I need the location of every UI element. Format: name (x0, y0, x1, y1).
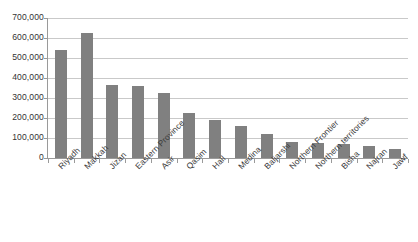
y-axis-tick (44, 98, 48, 99)
y-axis-tick (44, 78, 48, 79)
bar[interactable] (132, 86, 144, 158)
x-axis-labels: RiyadhMakkahJizanEastern ProvinceAsirQas… (48, 162, 418, 242)
bar[interactable] (183, 113, 195, 158)
bar[interactable] (55, 50, 67, 158)
gridline (48, 98, 408, 99)
y-axis-tick-label: 200,000 (0, 113, 44, 122)
gridline (48, 18, 408, 19)
y-axis-tick-label: 0 (0, 153, 44, 162)
bar[interactable] (209, 120, 221, 158)
y-axis-tick-label: 500,000 (0, 53, 44, 62)
gridline (48, 38, 408, 39)
y-axis-tick-label: 400,000 (0, 73, 44, 82)
y-axis-tick (44, 18, 48, 19)
y-axis-tick-label: 100,000 (0, 133, 44, 142)
y-axis-labels: 700,000600,000500,000400,000300,000200,0… (0, 0, 46, 242)
y-axis-tick (44, 38, 48, 39)
bar-chart: 700,000600,000500,000400,000300,000200,0… (0, 0, 418, 242)
gridline (48, 78, 408, 79)
gridline (48, 58, 408, 59)
y-axis-tick-label: 300,000 (0, 93, 44, 102)
y-axis-tick (44, 118, 48, 119)
gridline (48, 118, 408, 119)
bar[interactable] (81, 33, 93, 158)
y-axis-tick (44, 58, 48, 59)
gridline (48, 138, 408, 139)
y-axis-tick (44, 138, 48, 139)
y-axis-tick-label: 600,000 (0, 33, 44, 42)
y-axis-tick-label: 700,000 (0, 13, 44, 22)
